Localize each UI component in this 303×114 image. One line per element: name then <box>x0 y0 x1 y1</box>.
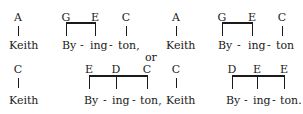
beam-line <box>66 22 96 24</box>
lyric-syllable: ton, <box>140 95 162 107</box>
note-label: C <box>170 64 182 76</box>
note-label: C <box>12 64 24 76</box>
note-label: C <box>276 12 288 24</box>
lyric-word: Keith <box>9 40 38 52</box>
stem-line <box>116 75 117 89</box>
lyric-syllable: By <box>62 40 76 52</box>
stem-line <box>252 22 253 36</box>
beam-line <box>232 75 285 77</box>
stem-line <box>66 22 67 36</box>
stem-line <box>18 26 19 36</box>
stem-line <box>147 75 148 89</box>
hyphen: - <box>267 40 271 52</box>
lyric-syllable: By <box>218 40 232 52</box>
lyric-syllable: By <box>226 95 240 107</box>
hyphen: - <box>109 40 113 52</box>
stem-line <box>18 78 19 88</box>
stem-line <box>257 75 258 89</box>
lyric-syllable: ton, <box>118 40 140 52</box>
hyphen: - <box>244 95 248 107</box>
lyric-syllable: ton <box>276 40 294 52</box>
hyphen: - <box>237 40 241 52</box>
lyric-word: Keith <box>9 95 38 107</box>
stem-line <box>95 22 96 36</box>
lyric-syllable: ing <box>90 40 108 52</box>
note-label: C <box>120 12 132 24</box>
lyric-syllable: ton. <box>280 95 302 107</box>
lyric-word: Keith <box>166 40 195 52</box>
lyric-syllable: ing <box>112 95 130 107</box>
stem-line <box>176 78 177 88</box>
stem-line <box>176 26 177 36</box>
hyphen: - <box>272 95 276 107</box>
lyric-word: Keith <box>166 95 195 107</box>
stem-line <box>232 75 233 89</box>
stem-line <box>222 22 223 36</box>
stem-line <box>284 75 285 89</box>
lyric-syllable: By <box>84 95 98 107</box>
hyphen: - <box>103 95 107 107</box>
beam-line <box>89 75 148 77</box>
note-label: A <box>12 12 24 24</box>
hyphen: - <box>80 40 84 52</box>
beam-line <box>222 22 253 24</box>
stem-line <box>126 26 127 36</box>
stem-line <box>89 75 90 89</box>
stem-line <box>282 26 283 36</box>
hyphen: - <box>132 95 136 107</box>
lyric-syllable: ing <box>248 40 266 52</box>
lyric-syllable: ing <box>253 95 271 107</box>
note-label: A <box>170 12 182 24</box>
